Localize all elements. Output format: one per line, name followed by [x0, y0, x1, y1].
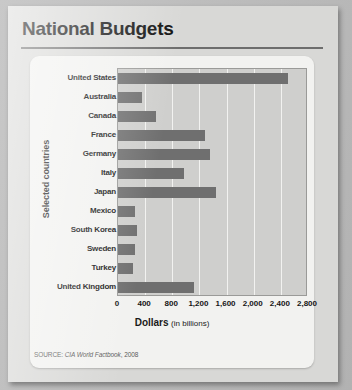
chart-card: Selected countries United StatesAustrali… — [30, 56, 314, 368]
category-label: United States — [67, 68, 116, 87]
bar — [118, 244, 135, 255]
page-title: National Budgets — [22, 18, 173, 40]
bar — [118, 263, 133, 274]
bar — [118, 111, 156, 122]
bar — [118, 92, 142, 103]
x-tick-label: 800 — [165, 299, 178, 308]
x-tick-label: 1,600 — [216, 299, 236, 308]
x-axis-label-text: Dollars — [135, 317, 169, 328]
gridline — [227, 69, 228, 295]
x-tick-label: 400 — [137, 299, 150, 308]
category-label: Australia — [84, 87, 116, 106]
bar — [118, 225, 137, 236]
x-tick-label: 1,200 — [188, 299, 208, 308]
category-label: Japan — [94, 182, 116, 201]
x-axis-label: Dollars (in billions) — [30, 317, 314, 328]
category-label: Canada — [88, 106, 116, 125]
bar — [118, 149, 210, 160]
bar — [118, 187, 216, 198]
bar — [118, 206, 135, 217]
x-axis-label-note: (in billions) — [171, 319, 209, 328]
category-label: Italy — [101, 163, 116, 182]
figure-paper: National Budgets Selected countries Unit… — [8, 6, 338, 382]
gridline — [172, 69, 173, 295]
gridline — [145, 69, 146, 295]
gridline — [254, 69, 255, 295]
bar-chart: Selected countries United StatesAustrali… — [30, 56, 314, 368]
source-prefix: SOURCE: — [34, 351, 65, 358]
bar — [118, 282, 194, 293]
category-label: France — [91, 125, 116, 144]
source-name: CIA World Factbook — [65, 351, 121, 358]
category-label: Mexico — [90, 201, 116, 220]
category-label: Germany — [83, 144, 116, 163]
bar — [118, 130, 205, 141]
gridline — [281, 69, 282, 295]
x-tick-label: 0 — [115, 299, 119, 308]
category-labels: United StatesAustraliaCanadaFranceGerman… — [34, 68, 116, 296]
x-tick-label: 2,400 — [270, 299, 290, 308]
title-divider — [21, 47, 323, 49]
bar — [118, 73, 288, 84]
bar — [118, 168, 184, 179]
category-label: South Korea — [71, 220, 116, 239]
plot-area — [117, 68, 307, 296]
source-year: , 2008 — [121, 351, 138, 358]
screenshot-page: National Budgets Selected countries Unit… — [0, 0, 352, 390]
x-tick-label: 2,800 — [297, 299, 317, 308]
x-axis-ticks: 04008001,2001,6002,0002,4002,800 — [117, 299, 307, 313]
category-label: Turkey — [92, 258, 116, 277]
x-tick-label: 2,000 — [243, 299, 263, 308]
gridline — [199, 69, 200, 295]
category-label: United Kingdom — [57, 277, 116, 296]
category-label: Sweden — [87, 239, 116, 258]
source-note: SOURCE: CIA World Factbook, 2008 — [34, 351, 138, 358]
